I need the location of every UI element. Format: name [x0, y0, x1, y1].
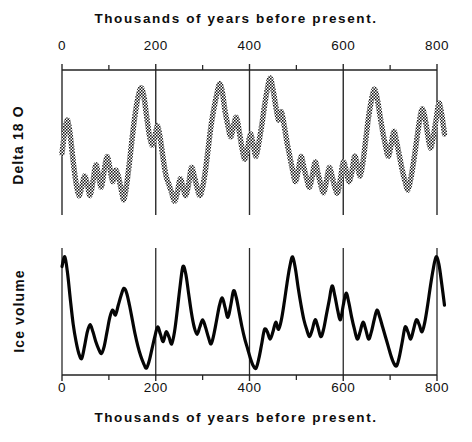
ice-volume-plot [0, 240, 472, 382]
top-caption: Thousands of years before present. [0, 11, 472, 26]
tick-label-200: 200 [144, 38, 168, 53]
tick-label-600: 600 [331, 380, 355, 395]
top-axis-tick-labels: 0200400600800 [0, 38, 472, 56]
bottom-caption: Thousands of years before present. [0, 410, 472, 425]
tick-label-800: 800 [425, 380, 449, 395]
tick-label-800: 800 [425, 38, 449, 53]
tick-label-200: 200 [144, 380, 168, 395]
figure-root: Thousands of years before present. 02004… [0, 0, 472, 442]
bottom-y-axis-label: Ice volume [11, 249, 27, 374]
tick-label-400: 400 [237, 380, 261, 395]
delta-18-o-plot [0, 60, 472, 222]
bottom-axis-tick-labels: 0200400600800 [0, 380, 472, 398]
delta-18-o-curve [62, 78, 445, 201]
ice-volume-curve [62, 257, 445, 369]
tick-label-400: 400 [237, 38, 261, 53]
tick-label-0: 0 [58, 38, 66, 53]
tick-label-600: 600 [331, 38, 355, 53]
ice-volume-panel [0, 240, 472, 382]
tick-label-0: 0 [58, 380, 66, 395]
delta-18-o-panel [0, 60, 472, 222]
top-tick-marks [62, 64, 437, 70]
